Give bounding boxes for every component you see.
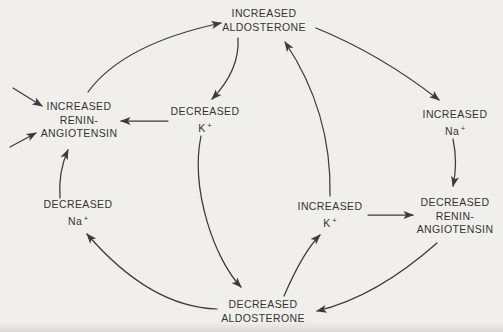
node-increased-na: INCREASED Na+	[423, 108, 488, 139]
node-increased-aldosterone: INCREASED ALDOSTERONE	[222, 7, 306, 34]
node-label-line: DECREASED	[221, 298, 305, 312]
node-label-line: K+	[171, 118, 240, 135]
arrow-increased-k-to-increased-aldosterone	[285, 42, 330, 196]
node-label-line: INCREASED	[41, 100, 118, 114]
arrow-decreased-renin-to-decreased-aldosterone	[317, 243, 437, 311]
node-label-line: DECREASED	[171, 105, 240, 119]
ion-charge: +	[207, 120, 211, 129]
node-decreased-na: DECREASED Na+	[44, 198, 113, 229]
node-label-line: DECREASED	[417, 196, 494, 210]
node-label-line: Na+	[423, 121, 488, 138]
arrow-increased-renin-to-increased-aldosterone	[88, 23, 221, 92]
node-label-line: RENIN-	[417, 209, 494, 223]
ion-symbol: K	[198, 122, 205, 134]
diagram-arrows	[0, 0, 503, 332]
ion-charge: +	[461, 123, 465, 132]
node-decreased-k: DECREASED K+	[171, 105, 240, 136]
node-label-line: ALDOSTERONE	[222, 20, 306, 34]
node-label-line: ALDOSTERONE	[221, 311, 305, 325]
node-label-line: INCREASED	[222, 7, 306, 21]
arrow-decreased-aldosterone-to-decreased-na	[87, 234, 217, 309]
arrow-decreased-k-to-decreased-aldosterone	[198, 136, 241, 287]
node-increased-k: INCREASED K+	[298, 200, 363, 231]
node-label-line: RENIN-	[41, 113, 118, 127]
ion-symbol: Na	[445, 125, 459, 137]
arrow-increased-aldosterone-to-decreased-k	[212, 38, 238, 99]
node-decreased-renin-angiotensin: DECREASED RENIN- ANGIOTENSIN	[417, 196, 494, 237]
arrow-decreased-aldosterone-to-increased-k	[284, 235, 320, 296]
ion-symbol: Na	[68, 215, 82, 227]
arrow-decreased-na-to-increased-renin	[60, 150, 68, 198]
node-label-line: K+	[298, 213, 363, 230]
node-label-line: INCREASED	[423, 108, 488, 122]
node-label-line: DECREASED	[44, 198, 113, 212]
arrow-external-lower-to-increased-renin	[10, 133, 36, 147]
arrow-increased-aldosterone-to-increased-na	[316, 28, 439, 100]
arrow-external-upper-to-increased-renin	[13, 88, 42, 106]
node-label-line: Na+	[44, 211, 113, 228]
arrow-increased-na-to-decreased-renin	[453, 139, 456, 186]
node-decreased-aldosterone: DECREASED ALDOSTERONE	[221, 298, 305, 325]
node-label-line: INCREASED	[298, 200, 363, 214]
ion-symbol: K	[323, 217, 330, 229]
ion-charge: +	[332, 215, 336, 224]
feedback-loop-diagram: INCREASED ALDOSTERONE INCREASED RENIN- A…	[0, 0, 503, 332]
node-label-line: ANGIOTENSIN	[417, 223, 494, 237]
node-increased-renin-angiotensin: INCREASED RENIN- ANGIOTENSIN	[41, 100, 118, 141]
ion-charge: +	[84, 213, 88, 222]
node-label-line: ANGIOTENSIN	[41, 127, 118, 141]
